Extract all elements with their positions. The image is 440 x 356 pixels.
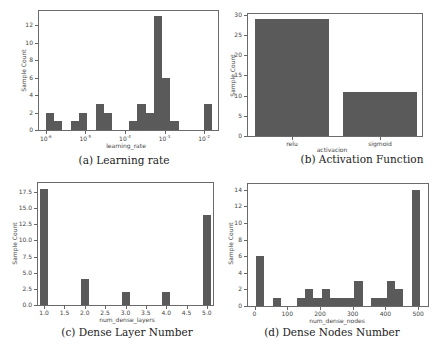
x-axis-label: num_dense_layers xyxy=(77,316,177,323)
y-tick-label: 10.0 xyxy=(12,236,32,243)
y-tick-label: 2 xyxy=(13,109,33,116)
y-tick-mark xyxy=(34,192,37,193)
x-tick-label: 10-6 xyxy=(31,134,61,142)
histogram-bar xyxy=(54,121,62,130)
y-tick-label: 15 xyxy=(222,71,242,78)
y-tick-label: 0 xyxy=(13,126,33,133)
y-tick-mark xyxy=(244,223,247,224)
x-tick-label: 10-4 xyxy=(110,134,140,142)
y-tick-label: 12 xyxy=(222,202,242,209)
y-tick-label: 5.0 xyxy=(12,269,32,276)
x-tick-label: 500 xyxy=(403,310,433,317)
histogram-bar xyxy=(338,298,346,306)
y-tick-label: 0 xyxy=(222,302,242,309)
histogram-bar xyxy=(343,92,417,136)
y-tick-mark xyxy=(244,55,247,56)
y-tick-mark xyxy=(244,273,247,274)
y-tick-mark xyxy=(34,273,37,274)
x-tick-label: 10-5 xyxy=(70,134,100,142)
x-axis-label: learning_rate xyxy=(76,142,176,149)
plot-area-learning-rate xyxy=(38,10,219,131)
y-tick-label: 10 xyxy=(222,92,242,99)
histogram-bar xyxy=(154,16,162,130)
y-tick-mark xyxy=(34,257,37,258)
y-tick-mark xyxy=(244,306,247,307)
y-tick-label: 4 xyxy=(222,269,242,276)
x-tick-label: 100 xyxy=(272,310,302,317)
histogram-bar xyxy=(146,113,154,131)
y-tick-label: 8 xyxy=(222,236,242,243)
x-tick-label: sigmoid xyxy=(365,140,395,147)
y-tick-mark xyxy=(35,113,38,114)
y-tick-label: 6 xyxy=(222,252,242,259)
y-tick-mark xyxy=(244,240,247,241)
x-tick-label: 5.0 xyxy=(192,309,222,316)
histogram-bar xyxy=(379,298,387,306)
plot-area-dense-layers xyxy=(37,182,214,306)
histogram-bar xyxy=(40,189,48,305)
histogram-bar xyxy=(203,215,211,305)
y-tick-mark xyxy=(34,305,37,306)
y-tick-label: 4 xyxy=(13,91,33,98)
histogram-bar xyxy=(122,292,130,305)
y-tick-label: 7.5 xyxy=(12,253,32,260)
histogram-bar xyxy=(162,78,170,131)
y-tick-mark xyxy=(35,95,38,96)
histogram-bar xyxy=(412,190,420,306)
histogram-bar xyxy=(255,19,329,136)
histogram-bar xyxy=(129,121,137,130)
histogram-bar xyxy=(387,281,395,306)
y-tick-mark xyxy=(35,60,38,61)
y-tick-mark xyxy=(244,96,247,97)
caption-c: (c) Dense Layer Number xyxy=(27,326,227,338)
histogram-bar xyxy=(354,281,362,306)
histogram-bar xyxy=(395,289,403,306)
histogram-bar xyxy=(204,104,212,130)
y-tick-label: 5 xyxy=(222,112,242,119)
y-tick-label: 12.5 xyxy=(12,220,32,227)
histogram-bar xyxy=(346,298,354,306)
y-tick-label: 10 xyxy=(13,39,33,46)
y-tick-label: 2 xyxy=(222,285,242,292)
y-tick-label: 17.5 xyxy=(12,188,32,195)
histogram-bar xyxy=(81,279,89,305)
y-tick-mark xyxy=(34,240,37,241)
histogram-bar xyxy=(371,298,379,306)
y-tick-label: 14 xyxy=(222,186,242,193)
histogram-bar xyxy=(313,298,321,306)
y-tick-label: 2.5 xyxy=(12,285,32,292)
histogram-bar xyxy=(305,289,313,306)
y-tick-mark xyxy=(244,190,247,191)
histogram-bar xyxy=(137,104,145,130)
y-tick-label: 10 xyxy=(222,219,242,226)
plot-area-dense-nodes xyxy=(247,183,429,307)
histogram-bar xyxy=(297,298,305,306)
y-tick-label: 20 xyxy=(222,51,242,58)
y-tick-mark xyxy=(244,35,247,36)
x-axis-label: num_dense_nodes xyxy=(287,317,387,324)
y-tick-label: 15.0 xyxy=(12,204,32,211)
y-tick-label: 8 xyxy=(13,56,33,63)
y-tick-mark xyxy=(35,130,38,131)
y-tick-label: 25 xyxy=(222,31,242,38)
caption-a: (a) Learning rate xyxy=(24,154,224,166)
x-axis-label: activacion xyxy=(282,146,382,153)
histogram-bar xyxy=(273,298,281,306)
y-tick-mark xyxy=(35,43,38,44)
y-tick-mark xyxy=(34,224,37,225)
y-tick-mark xyxy=(244,289,247,290)
y-tick-mark xyxy=(244,15,247,16)
histogram-bar xyxy=(330,298,338,306)
x-tick-label: 10-3 xyxy=(150,134,180,142)
y-tick-mark xyxy=(34,208,37,209)
y-tick-label: 30 xyxy=(222,11,242,18)
y-tick-mark xyxy=(35,78,38,79)
histogram-bar xyxy=(322,289,330,306)
y-tick-mark xyxy=(244,206,247,207)
x-tick-label: relu xyxy=(277,140,307,147)
y-tick-mark xyxy=(244,136,247,137)
y-tick-mark xyxy=(244,116,247,117)
histogram-bar xyxy=(104,113,112,131)
histogram-bar xyxy=(256,256,264,306)
histogram-bar xyxy=(96,104,104,130)
